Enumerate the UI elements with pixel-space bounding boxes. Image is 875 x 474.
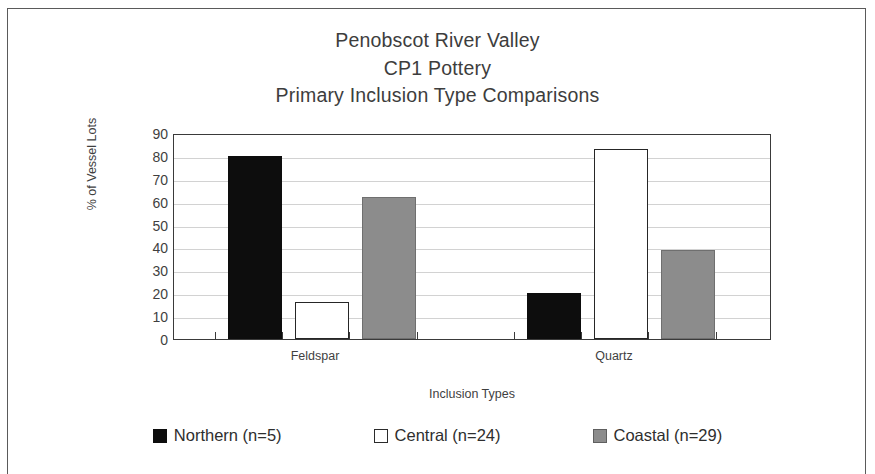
y-axis-tick-label: 10 [126, 310, 168, 324]
x-axis-tick-mark [514, 332, 515, 339]
chart-legend: Northern (n=5)Central (n=24)Coastal (n=2… [8, 426, 867, 445]
x-axis-tick-mark [417, 332, 418, 339]
chart-title: Penobscot River Valley CP1 Pottery Prima… [8, 27, 867, 110]
bar-central-feldspar [295, 302, 349, 339]
legend-label: Central (n=24) [395, 426, 501, 445]
x-axis-tick-labels: FeldsparQuartz [173, 349, 771, 367]
y-axis-tick-label: 70 [126, 173, 168, 187]
bar-central-quartz [594, 149, 648, 339]
bar-northern-feldspar [228, 156, 282, 339]
x-axis-tick-label-feldspar: Feldspar [225, 349, 405, 363]
legend-label: Northern (n=5) [174, 426, 282, 445]
x-axis-tick-mark [349, 332, 350, 339]
chart-title-line-3: Primary Inclusion Type Comparisons [8, 82, 867, 110]
y-axis-tick-label: 60 [126, 196, 168, 210]
x-axis-tick-mark [581, 332, 582, 339]
chart-title-line-2: CP1 Pottery [8, 55, 867, 83]
legend-item-central: Central (n=24) [374, 426, 501, 445]
y-axis-tick-label: 20 [126, 287, 168, 301]
y-axis-tick-label: 50 [126, 219, 168, 233]
bar-northern-quartz [527, 293, 581, 339]
x-axis-tick-mark [215, 332, 216, 339]
y-axis-title: % of Vessel Lots [85, 64, 99, 264]
y-axis-tick-label: 80 [126, 150, 168, 164]
legend-item-coastal: Coastal (n=29) [593, 426, 723, 445]
y-axis-tick-label: 40 [126, 241, 168, 255]
bar-coastal-quartz [661, 250, 715, 339]
y-axis-tick-label: 30 [126, 264, 168, 278]
bar-coastal-feldspar [362, 197, 416, 339]
x-axis-tick-mark [716, 332, 717, 339]
chart-title-line-1: Penobscot River Valley [8, 27, 867, 55]
x-axis-tick-mark [282, 332, 283, 339]
y-axis-tick-label: 90 [126, 127, 168, 141]
x-axis-title: Inclusion Types [173, 387, 771, 401]
bars-layer [174, 135, 770, 339]
legend-swatch-central-icon [374, 429, 388, 443]
legend-swatch-northern-icon [153, 429, 167, 443]
legend-label: Coastal (n=29) [614, 426, 723, 445]
x-axis-tick-label-quartz: Quartz [524, 349, 704, 363]
figure-frame: Penobscot River Valley CP1 Pottery Prima… [7, 8, 866, 474]
y-axis-tick-labels: 9080706050403020100 [126, 134, 168, 340]
x-axis-tick-mark [648, 332, 649, 339]
y-axis-tick-label: 0 [126, 333, 168, 347]
legend-swatch-coastal-icon [593, 429, 607, 443]
plot-area [173, 134, 771, 340]
legend-item-northern: Northern (n=5) [153, 426, 282, 445]
